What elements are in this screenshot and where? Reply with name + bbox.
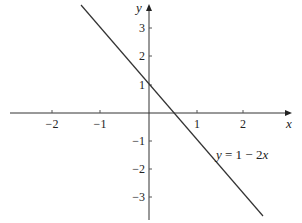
y-tick-label: −2 <box>132 162 145 176</box>
y-axis-label: y <box>134 0 142 15</box>
x-tick-label: −1 <box>94 117 107 131</box>
y-tick-label: −1 <box>132 134 145 148</box>
x-tick-label: 1 <box>194 117 200 131</box>
equation-label: y = 1 − 2x <box>214 147 268 162</box>
x-tick-label: −2 <box>46 117 59 131</box>
line-plot: −2 −1 1 2 3 2 1 −1 −2 −3 x y y = 1 − 2x <box>0 0 302 223</box>
x-axis-label: x <box>285 116 292 131</box>
y-tick-label: 3 <box>139 21 145 35</box>
line-series <box>81 5 263 216</box>
y-axis-arrow-icon <box>146 4 152 11</box>
x-tick-label: 2 <box>240 117 246 131</box>
y-tick-label: 1 <box>139 78 145 92</box>
y-tick-label: −3 <box>132 190 145 204</box>
y-tick-label: 2 <box>139 49 145 63</box>
